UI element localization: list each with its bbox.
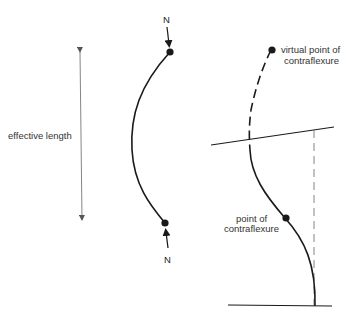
- effective-length-dimension-line: [80, 52, 82, 220]
- top-sway-line: [211, 127, 334, 145]
- point-of-contraflexure: [282, 214, 289, 221]
- top-load-label: N: [163, 14, 170, 25]
- virtual-extension-dashed: [249, 50, 271, 150]
- effective-length-label: effective length: [8, 130, 72, 141]
- top-load-arrow: [167, 27, 169, 44]
- top-pin-joint: [166, 48, 173, 55]
- bottom-load-label: N: [164, 254, 171, 265]
- virtual-point-label-line2: contraflexure: [284, 55, 339, 66]
- bottom-load-arrow: [166, 232, 168, 248]
- virtual-point-label-line1: virtual point of: [281, 44, 341, 55]
- base-line: [228, 305, 332, 306]
- bottom-pin-joint: [161, 219, 168, 226]
- left-figure: effective length N N: [8, 14, 174, 265]
- point-label-line2: contraflexure: [224, 223, 279, 234]
- virtual-point-of-contraflexure: [268, 46, 275, 53]
- effective-length-diagram: effective length N N virtual point of co…: [0, 0, 358, 321]
- right-figure: virtual point of contraflexure point of …: [211, 44, 341, 306]
- bowed-strut: [132, 52, 170, 223]
